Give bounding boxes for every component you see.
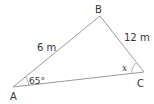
vertex-label-a: A: [10, 91, 17, 102]
side-label-bc: 12 m: [124, 32, 150, 43]
vertex-label-c: C: [137, 78, 144, 89]
angle-arc-c: [132, 63, 137, 74]
angle-label-c: x: [122, 63, 127, 73]
angle-label-a: 65°: [29, 76, 45, 86]
vertex-label-b: B: [95, 4, 102, 15]
side-label-ab: 6 m: [37, 42, 56, 53]
triangle-diagram: A B C 6 m 12 m 65° x: [0, 0, 154, 104]
